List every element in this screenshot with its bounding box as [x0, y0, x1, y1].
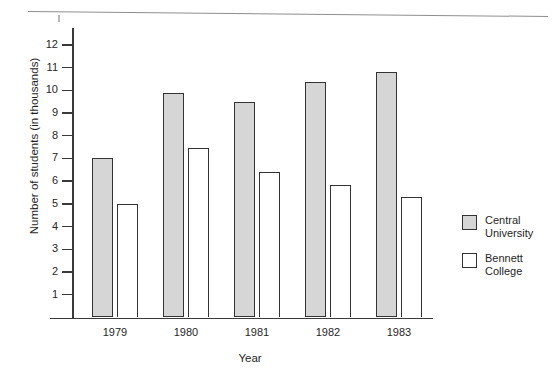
y-tick-4 [62, 226, 73, 227]
legend-swatch-central-icon [462, 215, 477, 230]
y-tick-8 [62, 135, 73, 136]
bar-1983-central-university [376, 72, 397, 317]
x-axis-line [50, 318, 433, 320]
legend-label-bennett: Bennett College [485, 252, 523, 277]
y-tick-1 [62, 294, 73, 295]
y-tick-11 [62, 67, 73, 68]
legend-item-bennett: Bennett College [462, 252, 523, 277]
y-tick-6 [62, 180, 73, 181]
y-axis-title: Number of students (in thousands) [28, 26, 40, 266]
bar-1979-bennett-college [117, 204, 138, 318]
bar-1982-central-university [305, 82, 326, 317]
legend-label-bennett-line2: College [485, 265, 523, 278]
y-tick-5 [62, 203, 73, 204]
x-label-1981: 1981 [222, 326, 292, 338]
bar-1981-central-university [234, 102, 255, 318]
bar-1983-bennett-college [401, 197, 422, 317]
legend-label-bennett-line1: Bennett [485, 252, 523, 265]
x-label-1980: 1980 [151, 326, 221, 338]
x-label-1982: 1982 [293, 326, 363, 338]
scan-speck [58, 15, 60, 22]
y-tick-label-1: 1 [18, 289, 58, 300]
y-tick-7 [62, 158, 73, 159]
legend-item-central: Central University [462, 214, 533, 239]
bar-1979-central-university [92, 158, 113, 317]
chart-page: 123456789101112 Number of students (in t… [0, 0, 554, 378]
y-tick-12 [62, 44, 73, 45]
bar-1981-bennett-college [259, 172, 280, 317]
bar-1982-bennett-college [330, 185, 351, 318]
clipped-header-text [30, 0, 270, 6]
legend-label-central-line2: University [485, 227, 533, 240]
y-tick-label-2: 2 [18, 266, 58, 277]
x-axis-title: Year [160, 352, 340, 364]
legend-swatch-bennett-icon [462, 253, 477, 268]
bar-1980-bennett-college [188, 148, 209, 317]
x-label-1983: 1983 [364, 326, 434, 338]
y-axis-line [72, 28, 74, 319]
y-tick-3 [62, 249, 73, 250]
page-rule [28, 11, 548, 17]
x-label-1979: 1979 [80, 326, 150, 338]
y-tick-2 [62, 271, 73, 272]
y-tick-9 [62, 112, 73, 113]
bar-1980-central-university [163, 93, 184, 318]
legend-label-central-line1: Central [485, 214, 533, 227]
legend-label-central: Central University [485, 214, 533, 239]
y-tick-10 [62, 90, 73, 91]
